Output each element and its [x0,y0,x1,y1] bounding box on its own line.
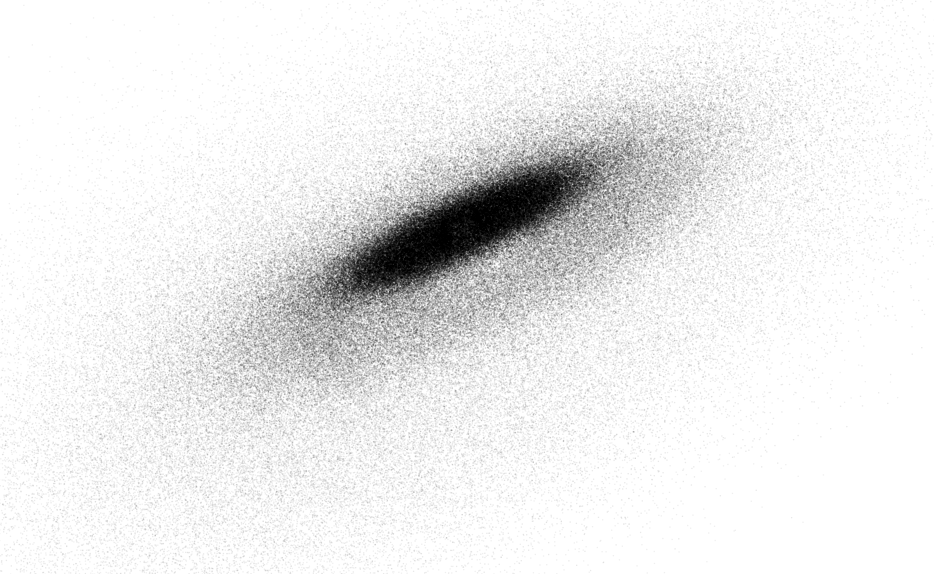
scatter-plot-figure [0,0,934,574]
point-cloud-canvas [0,0,934,574]
